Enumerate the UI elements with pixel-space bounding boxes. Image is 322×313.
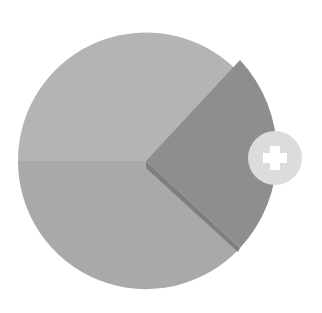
add-button[interactable] [248,131,302,185]
pie-chart [0,0,322,313]
